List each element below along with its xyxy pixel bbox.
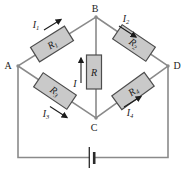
node-c-label: C <box>91 122 98 133</box>
current-i4-label: I4 <box>126 107 134 119</box>
current-i-mid-label: I <box>72 78 77 89</box>
resistor-r-mid-label: R <box>90 67 97 78</box>
resistor-r3: R3 <box>34 73 77 109</box>
node-d-label: D <box>173 60 180 71</box>
current-i1-label: I1 <box>32 19 40 31</box>
resistor-r-mid: R <box>87 55 102 89</box>
current-i3-label: I3 <box>42 108 50 120</box>
node-b-label: B <box>92 3 99 14</box>
battery-cell-icon <box>89 147 94 168</box>
node-b-dot <box>94 15 97 18</box>
node-c-dot <box>94 116 97 119</box>
wheatstone-bridge-diagram: R1 R2 R3 R4 R I1 I2 I3 I4 I A B C D <box>0 0 186 172</box>
node-a-label: A <box>4 60 12 71</box>
resistor-r1: R1 <box>31 26 74 62</box>
resistor-r2: R2 <box>113 25 156 61</box>
node-a-dot <box>16 64 19 67</box>
resistor-r4: R4 <box>112 72 154 109</box>
current-i1-arrow <box>44 20 61 31</box>
current-i2-label: I2 <box>122 13 130 25</box>
node-d-dot <box>166 64 169 67</box>
